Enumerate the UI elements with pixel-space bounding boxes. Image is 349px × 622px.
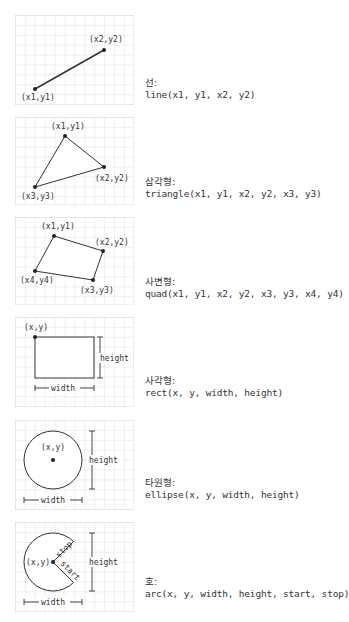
caption-title: 사변형:	[145, 276, 344, 288]
quad-diagram: (x1,y1) (x2,y2) (x3,y3) (x4,y4)	[15, 217, 134, 305]
ellipse-diagram: (x,y) height width	[15, 420, 134, 510]
origin-marker	[33, 335, 37, 339]
caption-signature: quad(x1, y1, x2, y2, x3, y3, x4, y4)	[145, 288, 344, 300]
caption-signature: rect(x, y, width, height)	[145, 387, 283, 399]
label-width: width	[51, 384, 75, 393]
label-p2: (x2,y2)	[89, 35, 123, 44]
label-p2: (x2,y2)	[95, 174, 129, 183]
triangle-diagram: (x1,y1) (x2,y2) (x3,y3)	[15, 117, 134, 205]
label-p3: (x3,y3)	[80, 286, 114, 295]
label-height: height	[89, 456, 118, 465]
point-marker	[33, 269, 37, 273]
rect-row: (x,y) height width 사각형: rect(x, y, width…	[0, 317, 340, 409]
label-p4: (x4,y4)	[20, 276, 54, 285]
label-p1: (x1,y1)	[21, 93, 55, 102]
rect-shape	[35, 337, 94, 378]
caption-signature: arc(x, y, width, height, start, stop)	[145, 588, 349, 600]
caption-title: 선:	[145, 77, 255, 89]
label-p2: (x2,y2)	[95, 238, 129, 247]
line-row: (x1,y1) (x2,y2) 선: line(x1, y1, x2, y2)	[0, 15, 340, 107]
label-height: height	[89, 558, 118, 567]
triangle-caption: 삼각형: triangle(x1, y1, x2, y2, x3, y3)	[145, 176, 322, 200]
label-origin: (x,y)	[41, 443, 65, 452]
rect-caption: 사각형: rect(x, y, width, height)	[145, 375, 283, 399]
caption-title: 타원형:	[145, 477, 300, 489]
arc-caption: 호: arc(x, y, width, height, start, stop)	[145, 576, 349, 600]
label-width: width	[41, 598, 65, 607]
quad-row: (x1,y1) (x2,y2) (x3,y3) (x4,y4) 사변형: qua…	[0, 217, 340, 307]
point-marker	[63, 134, 67, 138]
caption-title: 삼각형:	[145, 176, 322, 188]
point-marker	[52, 234, 56, 238]
quad-caption: 사변형: quad(x1, y1, x2, y2, x3, y3, x4, y4…	[145, 276, 344, 300]
point-marker	[33, 87, 37, 91]
center-marker	[51, 560, 55, 564]
caption-signature: line(x1, y1, x2, y2)	[145, 89, 255, 101]
ellipse-caption: 타원형: ellipse(x, y, width, height)	[145, 477, 300, 501]
point-marker	[33, 185, 37, 189]
line-caption: 선: line(x1, y1, x2, y2)	[145, 77, 255, 101]
center-marker	[51, 458, 55, 462]
rect-diagram: (x,y) height width	[15, 317, 134, 407]
point-marker	[102, 165, 106, 169]
label-width: width	[41, 496, 65, 505]
arc-diagram: (x,y) stop start height width	[15, 522, 134, 612]
caption-title: 사각형:	[145, 375, 283, 387]
label-height: height	[100, 354, 129, 363]
caption-signature: ellipse(x, y, width, height)	[145, 489, 300, 501]
label-origin: (x,y)	[24, 323, 48, 332]
label-p3: (x3,y3)	[21, 192, 55, 201]
caption-title: 호:	[145, 576, 349, 588]
ellipse-row: (x,y) height width 타원형: ellipse(x, y, wi…	[0, 420, 340, 512]
arc-row: (x,y) stop start height width 호: arc(x, …	[0, 522, 340, 617]
label-p1: (x1,y1)	[51, 122, 85, 131]
point-marker	[101, 249, 105, 253]
label-origin: (x,y)	[26, 558, 50, 567]
line-diagram: (x1,y1) (x2,y2)	[15, 15, 134, 105]
point-marker	[102, 48, 106, 52]
caption-signature: triangle(x1, y1, x2, y2, x3, y3)	[145, 188, 322, 200]
point-marker	[91, 278, 95, 282]
label-p1: (x1,y1)	[41, 222, 75, 231]
triangle-row: (x1,y1) (x2,y2) (x3,y3) 삼각형: triangle(x1…	[0, 117, 340, 207]
